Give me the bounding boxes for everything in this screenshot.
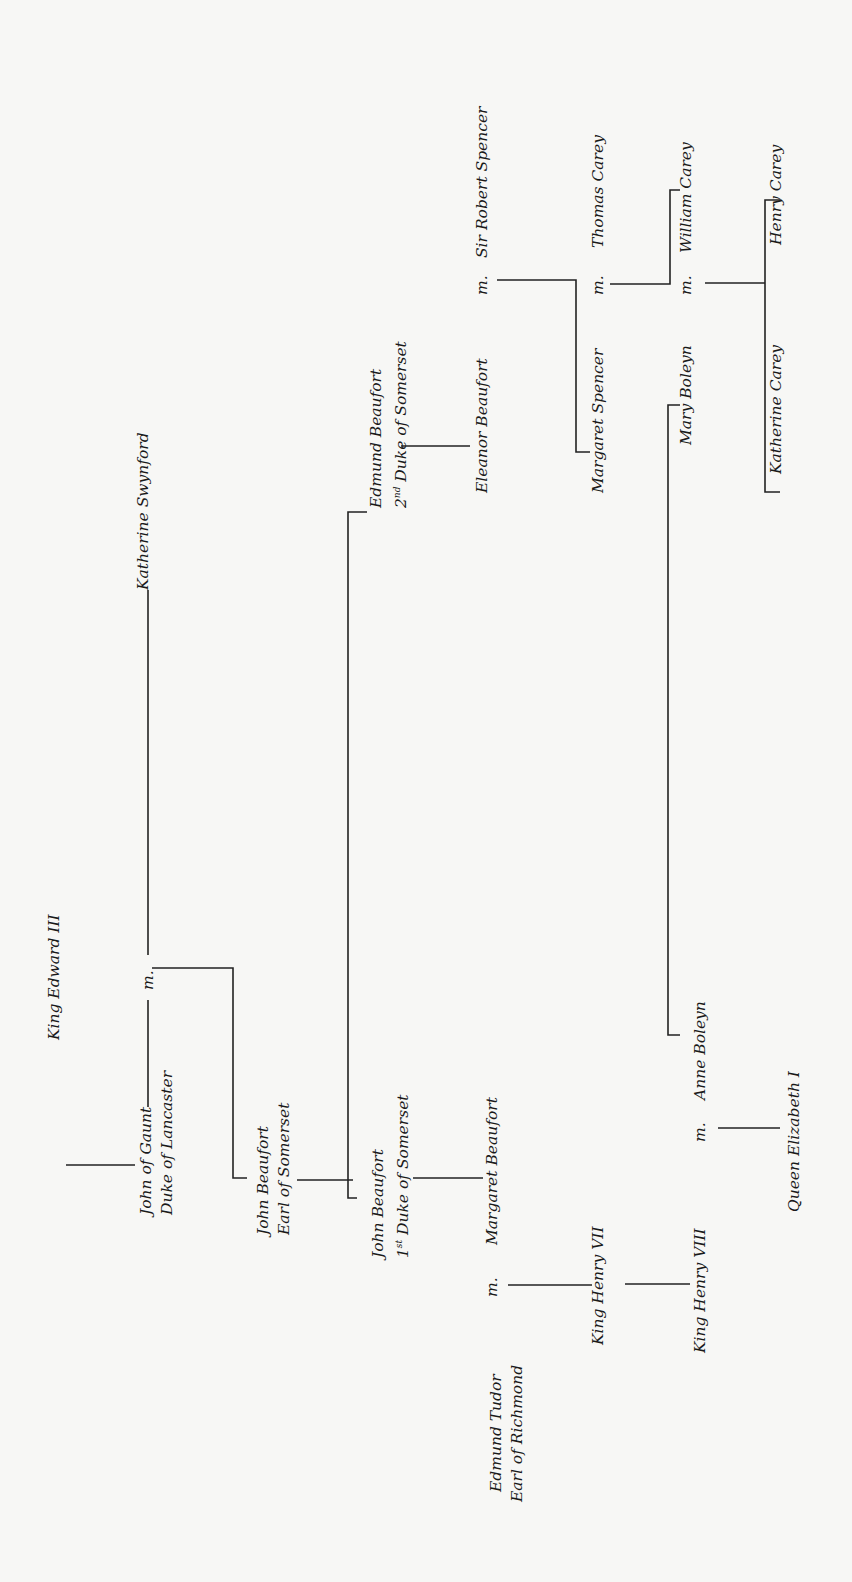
person-queen-elizabeth-i: Queen Elizabeth I xyxy=(784,1071,805,1212)
marriage-marker: m. xyxy=(138,970,159,990)
person-william-carey: William Carey xyxy=(676,142,697,253)
person-john-beaufort-duke: John Beaufort 1st Duke of Somerset xyxy=(368,1094,414,1258)
marriage-marker: m. xyxy=(482,1277,503,1297)
person-john-of-gaunt: John of Gaunt Duke of Lancaster xyxy=(136,1071,178,1215)
person-name: John of Gaunt xyxy=(136,1071,157,1215)
person-name: Katherine Carey xyxy=(767,345,785,474)
person-eleanor-beaufort: Eleanor Beaufort xyxy=(472,358,493,493)
person-name: John Beaufort xyxy=(368,1094,389,1258)
person-king-henry-vii: King Henry VII xyxy=(588,1226,609,1345)
person-title: Earl of Richmond xyxy=(507,1365,528,1502)
person-title: 1st Duke of Somerset xyxy=(389,1094,414,1258)
person-margaret-beaufort: Margaret Beaufort xyxy=(482,1097,503,1245)
person-name: John Beaufort xyxy=(253,1103,274,1235)
person-thomas-carey: Thomas Carey xyxy=(588,135,609,248)
person-mary-boleyn: Mary Boleyn xyxy=(676,345,697,445)
person-edmund-tudor: Edmund Tudor Earl of Richmond xyxy=(486,1365,528,1502)
person-john-beaufort-earl: John Beaufort Earl of Somerset xyxy=(253,1103,295,1235)
person-name: Anne Boleyn xyxy=(691,1001,709,1100)
person-name: Mary Boleyn xyxy=(677,345,695,445)
person-title: 2nd Duke of Somerset xyxy=(387,341,412,508)
person-name: King Edward III xyxy=(45,914,63,1040)
person-sir-robert-spencer: Sir Robert Spencer xyxy=(472,106,493,258)
marriage-marker: m. xyxy=(472,275,493,295)
person-title: Duke of Lancaster xyxy=(157,1071,178,1215)
person-king-henry-viii: King Henry VIII xyxy=(690,1228,711,1353)
person-katherine-swynford: Katherine Swynford xyxy=(133,432,154,590)
person-name: Edmund Tudor xyxy=(486,1365,507,1502)
marriage-marker: m. xyxy=(690,1122,711,1142)
person-name: King Henry VIII xyxy=(691,1228,709,1353)
person-name: Henry Carey xyxy=(767,145,785,245)
person-name: Katherine Swynford xyxy=(134,432,152,590)
person-name: Eleanor Beaufort xyxy=(473,358,491,493)
person-title: Earl of Somerset xyxy=(274,1103,295,1235)
person-name: Queen Elizabeth I xyxy=(785,1071,803,1212)
person-edmund-beaufort: Edmund Beaufort 2nd Duke of Somerset xyxy=(366,341,412,508)
person-name: Margaret Beaufort xyxy=(483,1097,501,1245)
person-name: King Henry VII xyxy=(589,1226,607,1345)
person-name: Thomas Carey xyxy=(589,135,607,248)
person-margaret-spencer: Margaret Spencer xyxy=(588,349,609,493)
person-king-edward-iii: King Edward III xyxy=(44,914,65,1040)
marriage-marker: m. xyxy=(676,275,697,295)
marriage-marker: m. xyxy=(588,275,609,295)
person-katherine-carey: Katherine Carey xyxy=(766,345,787,474)
person-name: Sir Robert Spencer xyxy=(473,106,491,258)
person-name: William Carey xyxy=(677,142,695,253)
person-henry-carey: Henry Carey xyxy=(766,145,787,245)
person-name: Edmund Beaufort xyxy=(366,341,387,508)
connector-lines xyxy=(0,0,852,1582)
person-name: Margaret Spencer xyxy=(589,349,607,493)
person-anne-boleyn: Anne Boleyn xyxy=(690,1001,711,1100)
